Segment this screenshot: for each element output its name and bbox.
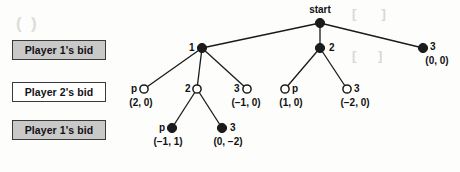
node-label-start: start: [309, 4, 331, 15]
edge-node2L-to-3: [197, 89, 222, 128]
node-2-right[interactable]: [315, 43, 324, 52]
node-1[interactable]: [197, 43, 206, 52]
node-label-p-right: p: [292, 83, 298, 94]
node-label-3-far-right: 3: [430, 41, 436, 52]
edge-start-to-node3: [320, 23, 423, 48]
node-label-3-right: 3: [354, 83, 360, 94]
node-payoff-3-bottom: (0, −2): [213, 136, 242, 147]
node-payoff-3-far-right: (0, 0): [425, 55, 448, 66]
node-payoff-p-right: (1, 0): [279, 97, 302, 108]
node-start[interactable]: [315, 18, 324, 27]
node-payoff-3-left: (−1, 0): [231, 97, 260, 108]
node-label-3-left: 3: [234, 83, 240, 94]
game-tree-figure: ( ) [ ] [ ] Player 1's bid Player 2's bi…: [0, 0, 460, 172]
node-p-right[interactable]: [281, 85, 289, 93]
edge-node1-to-p: [144, 48, 202, 89]
node-label-2-left: 2: [185, 83, 191, 94]
node-2-left[interactable]: [193, 85, 201, 93]
node-payoff-3-right: (−2, 0): [340, 97, 369, 108]
node-3-far-right[interactable]: [418, 43, 427, 52]
node-payoff-p-left: (2, 0): [129, 97, 152, 108]
node-label-1: 1: [189, 42, 195, 53]
node-payoff-p-bottom: (−1, 1): [153, 136, 182, 147]
node-3-right[interactable]: [343, 85, 351, 93]
node-label-p-bottom: p: [159, 122, 165, 133]
node-p-bottom[interactable]: [167, 123, 176, 132]
node-label-p-left: p: [131, 83, 137, 94]
edge-node2R-to-p: [285, 48, 320, 89]
edge-node2L-to-p: [172, 89, 197, 128]
edge-node1-to-3: [202, 48, 247, 89]
edge-start-to-node1: [202, 23, 320, 48]
node-label-2-right: 2: [329, 42, 335, 53]
node-label-3-bottom: 3: [230, 122, 236, 133]
node-3-left[interactable]: [243, 85, 251, 93]
edge-node1-to-2: [197, 48, 202, 89]
node-p-left[interactable]: [140, 85, 148, 93]
node-3-bottom[interactable]: [217, 123, 226, 132]
edge-node2R-to-3: [320, 48, 347, 89]
